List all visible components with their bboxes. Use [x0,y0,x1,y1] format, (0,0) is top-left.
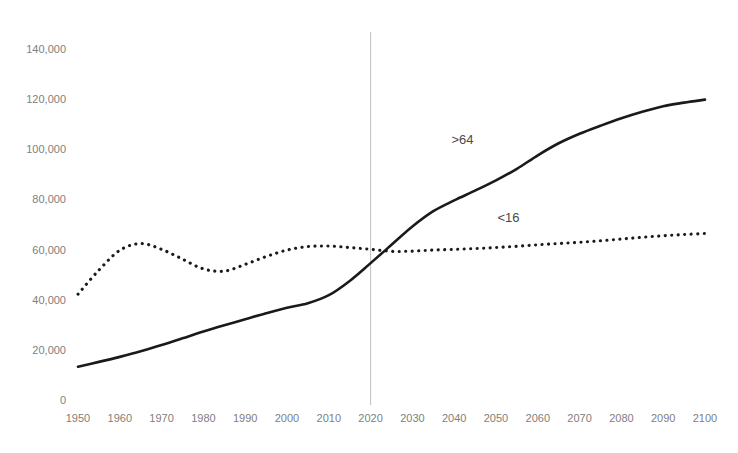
x-axis-tick-label: 2020 [358,412,382,424]
x-axis-tick-label: 1970 [149,412,173,424]
data-series-group [78,100,705,367]
x-axis-tick-label: 2040 [442,412,466,424]
x-axis-tick-label: 1980 [191,412,215,424]
chart-canvas: 020,00040,00060,00080,000100,000120,0001… [0,0,738,453]
x-axis-tick-label: 1990 [233,412,257,424]
x-axis-tick-label: 2010 [317,412,341,424]
x-axis-tick-label: 2060 [526,412,550,424]
y-axis-tick-label: 120,000 [26,93,66,105]
x-axis-tick-label: 2080 [609,412,633,424]
y-axis-tick-label: 0 [60,394,66,406]
population-projection-chart: 020,00040,00060,00080,000100,000120,0001… [0,0,738,453]
y-axis-tick-labels: 020,00040,00060,00080,000100,000120,0001… [26,43,66,406]
series-annotations: >64<16 [452,132,520,225]
x-axis-tick-label: 2070 [567,412,591,424]
series-line-under-16 [78,234,705,295]
y-axis-tick-label: 80,000 [32,193,66,205]
y-axis-tick-label: 100,000 [26,143,66,155]
x-axis-tick-label: 2100 [693,412,717,424]
y-axis-tick-label: 60,000 [32,244,66,256]
y-axis-tick-label: 140,000 [26,43,66,55]
y-axis-tick-label: 20,000 [32,344,66,356]
x-axis-tick-label: 1960 [108,412,132,424]
x-axis-tick-label: 2090 [651,412,675,424]
x-axis-tick-label: 2050 [484,412,508,424]
x-axis-tick-label: 2030 [400,412,424,424]
series-label-over-64: >64 [452,132,474,147]
series-line-over-64 [78,100,705,367]
x-axis-tick-label: 1950 [66,412,90,424]
y-axis-tick-label: 40,000 [32,294,66,306]
series-label-under-16: <16 [498,210,520,225]
x-axis-tick-label: 2000 [275,412,299,424]
x-axis-tick-labels: 1950196019701980199020002010202020302040… [66,412,717,424]
